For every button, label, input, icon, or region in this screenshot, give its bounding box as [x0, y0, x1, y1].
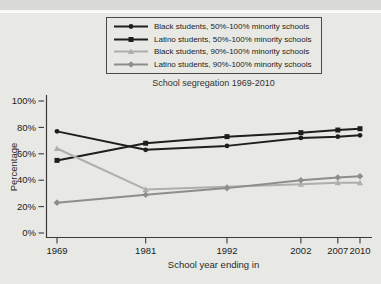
- svg-text:1992: 1992: [216, 245, 237, 256]
- legend-item: Latino students, 50%-100% minority schoo…: [107, 33, 321, 45]
- svg-text:1981: 1981: [135, 245, 156, 256]
- legend-label: Black students, 50%-100% minority school…: [154, 22, 309, 31]
- legend-marker-circle-icon: [114, 22, 148, 31]
- legend-marker-square-icon: [114, 35, 148, 44]
- legend: Black students, 50%-100% minority school…: [106, 17, 322, 74]
- svg-text:2010: 2010: [349, 245, 370, 256]
- chart-title: School segregation 1969-2010: [57, 78, 370, 88]
- y-axis-label: Percentage: [8, 143, 19, 192]
- legend-marker-diamond-icon: [114, 60, 148, 69]
- legend-item: Black students, 90%-100% minority school…: [107, 46, 321, 58]
- x-axis-label: School year ending in: [57, 259, 370, 270]
- svg-text:100%: 100%: [12, 95, 37, 106]
- legend-label: Latino students, 90%-100% minority schoo…: [154, 60, 311, 69]
- legend-label: Black students, 90%-100% minority school…: [154, 47, 309, 56]
- legend-item: Latino students, 90%-100% minority schoo…: [107, 59, 321, 71]
- svg-text:20%: 20%: [17, 201, 37, 212]
- svg-text:2007: 2007: [327, 245, 348, 256]
- legend-marker-triangle-icon: [114, 47, 148, 56]
- legend-item: Black students, 50%-100% minority school…: [107, 20, 321, 32]
- svg-text:40%: 40%: [17, 174, 37, 185]
- legend-label: Latino students, 50%-100% minority schoo…: [154, 35, 311, 44]
- figure: 0%20%40%60%80%100%1969198119922002200720…: [0, 0, 381, 284]
- svg-text:60%: 60%: [17, 148, 37, 159]
- svg-text:80%: 80%: [17, 122, 37, 133]
- svg-text:1969: 1969: [46, 245, 67, 256]
- svg-text:2002: 2002: [290, 245, 311, 256]
- svg-text:0%: 0%: [22, 227, 36, 238]
